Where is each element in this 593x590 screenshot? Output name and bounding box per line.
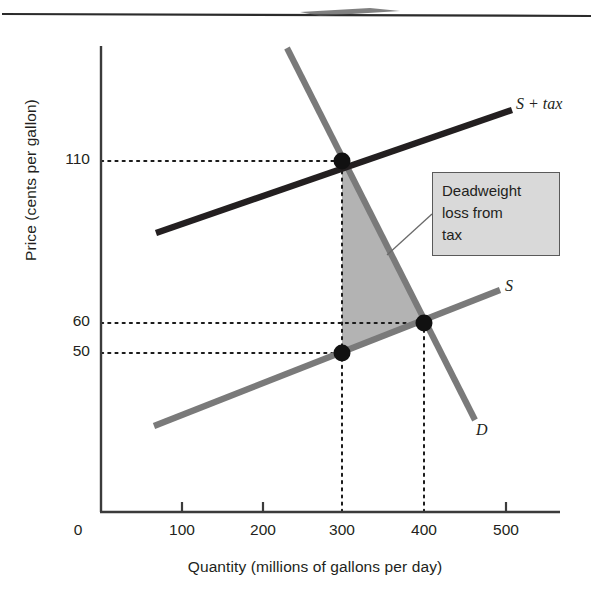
x-tick-label-100: 100: [159, 521, 205, 539]
y-tick-label-50: 50: [44, 342, 90, 360]
chart-canvas: [0, 0, 593, 590]
supply-plus-tax-label: S + tax: [516, 95, 562, 113]
annotation-text: Deadweight loss from tax: [442, 180, 559, 246]
annotation-line-2: loss from: [442, 202, 559, 224]
deadweight-loss-callout: Deadweight loss from tax: [432, 172, 560, 256]
demand-label: D: [476, 421, 488, 439]
marker-buyer-price-110: [334, 153, 351, 170]
x-tick-label-200: 200: [240, 521, 286, 539]
marker-seller-price-50: [334, 345, 351, 362]
page-top-rule: [2, 14, 591, 16]
deadweight-loss-figure: Deadweight loss from tax S + tax S D 110…: [0, 0, 593, 590]
x-axis-title: Quantity (millions of gallons per day): [100, 558, 530, 576]
y-axis-title: Price (cents per gallon): [22, 70, 40, 290]
x-tick-label-500: 500: [483, 521, 529, 539]
supply-label: S: [505, 277, 513, 295]
x-tick-label-0: 0: [55, 521, 101, 539]
x-tick-label-400: 400: [401, 521, 447, 539]
y-tick-label-60: 60: [44, 312, 90, 330]
y-tick-label-110: 110: [44, 150, 90, 168]
supply-curve: [154, 290, 500, 426]
annotation-leader-line: [387, 214, 432, 255]
annotation-line-1: Deadweight: [442, 180, 559, 202]
x-tick-label-300: 300: [319, 521, 365, 539]
annotation-line-3: tax: [442, 224, 559, 246]
marker-equilibrium-60: [416, 315, 433, 332]
